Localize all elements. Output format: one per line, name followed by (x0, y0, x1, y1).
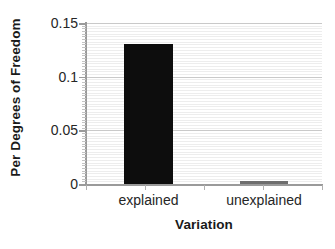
gridline-minor (86, 87, 322, 88)
y-axis-minor-tick (82, 90, 86, 91)
gridline-minor (86, 44, 322, 45)
y-axis-title-text: Per Degrees of Freedom (8, 18, 23, 176)
gridline-minor (86, 69, 322, 70)
gridline-minor (86, 168, 322, 169)
gridline-minor (86, 71, 322, 72)
y-axis-minor-tick (82, 26, 86, 27)
gridline-minor (86, 106, 322, 107)
gridline-minor (86, 98, 322, 99)
y-axis-minor-tick (82, 98, 86, 99)
y-axis-minor-tick (82, 63, 86, 64)
y-axis-minor-tick (82, 141, 86, 142)
x-axis-tick (145, 185, 146, 190)
y-axis-minor-tick (82, 144, 86, 145)
gridline-minor (86, 93, 322, 94)
gridline-minor (86, 82, 322, 83)
y-axis-minor-tick (82, 50, 86, 51)
gridline-minor (86, 39, 322, 40)
gridline-major (86, 130, 322, 131)
y-axis-minor-tick (82, 106, 86, 107)
gridline-major (86, 77, 322, 78)
y-axis-minor-tick (82, 171, 86, 172)
y-axis-minor-tick (82, 138, 86, 139)
y-axis-minor-tick (82, 104, 86, 105)
x-category-label-unexplained: unexplained (226, 192, 302, 208)
y-axis-minor-tick (82, 53, 86, 54)
y-axis-minor-tick (82, 87, 86, 88)
y-axis-minor-tick (82, 28, 86, 29)
gridline-minor (86, 66, 322, 67)
gridline-minor (86, 154, 322, 155)
y-axis-minor-tick (82, 176, 86, 177)
gridline-minor (86, 112, 322, 113)
gridline-minor (86, 26, 322, 27)
y-axis-minor-tick (82, 34, 86, 35)
y-axis-minor-tick (82, 117, 86, 118)
y-axis-tick-labels: 0.15 0.1 0.05 0 (30, 0, 82, 249)
gridline-minor (86, 122, 322, 123)
y-tick-label: 0.15 (51, 15, 78, 31)
gridline-minor (86, 36, 322, 37)
gridline-minor (86, 176, 322, 177)
y-axis-tick (79, 23, 86, 25)
gridline-minor (86, 117, 322, 118)
gridline-minor (86, 152, 322, 153)
x-axis-tick (86, 185, 87, 190)
y-axis-minor-tick (82, 95, 86, 96)
gridline-minor (86, 165, 322, 166)
y-axis-minor-tick (82, 146, 86, 147)
y-axis-tick (79, 184, 86, 186)
y-axis-minor-tick (82, 101, 86, 102)
gridline-minor (86, 63, 322, 64)
y-axis-minor-tick (82, 154, 86, 155)
gridline-minor (86, 90, 322, 91)
gridline-minor (86, 120, 322, 121)
gridline-minor (86, 125, 322, 126)
gridline-minor (86, 109, 322, 110)
y-axis-minor-tick (82, 160, 86, 161)
x-axis-tick (263, 185, 264, 190)
y-axis-minor-tick (82, 85, 86, 86)
gridline-minor (86, 58, 322, 59)
y-axis-minor-tick (82, 149, 86, 150)
y-axis-minor-tick (82, 55, 86, 56)
y-axis-minor-tick (82, 114, 86, 115)
y-axis-minor-tick (82, 93, 86, 94)
gridline-minor (86, 28, 322, 29)
gridline-minor (86, 53, 322, 54)
y-axis-minor-tick (82, 82, 86, 83)
y-tick-label: 0.05 (51, 122, 78, 138)
gridline-minor (86, 114, 322, 115)
gridline-minor (86, 171, 322, 172)
gridline-minor (86, 95, 322, 96)
y-axis-minor-tick (82, 74, 86, 75)
bar-explained[interactable] (124, 44, 173, 184)
gridline-minor (86, 160, 322, 161)
gridline-minor (86, 163, 322, 164)
bar-chart: Per Degrees of Freedom 0.15 0.1 0.05 0 e… (0, 0, 335, 249)
y-axis-minor-tick (82, 71, 86, 72)
y-axis-minor-tick (82, 42, 86, 43)
y-axis-minor-tick (82, 179, 86, 180)
gridline-minor (86, 138, 322, 139)
gridline-minor (86, 61, 322, 62)
gridline-minor (86, 141, 322, 142)
y-axis-tick (79, 77, 86, 79)
y-axis-minor-tick (82, 165, 86, 166)
gridline-minor (86, 74, 322, 75)
gridline-minor (86, 31, 322, 32)
y-tick-label: 0 (70, 176, 78, 192)
y-axis-minor-tick (82, 157, 86, 158)
gridline-minor (86, 55, 322, 56)
gridline-minor (86, 149, 322, 150)
gridline-minor (86, 85, 322, 86)
gridline-minor (86, 128, 322, 129)
y-tick-label: 0.1 (59, 69, 78, 85)
gridline-minor (86, 42, 322, 43)
gridline-minor (86, 146, 322, 147)
gridline-minor (86, 136, 322, 137)
y-axis-tick (79, 130, 86, 132)
y-axis-minor-tick (82, 31, 86, 32)
gridline-minor (86, 133, 322, 134)
y-axis-minor-tick (82, 36, 86, 37)
